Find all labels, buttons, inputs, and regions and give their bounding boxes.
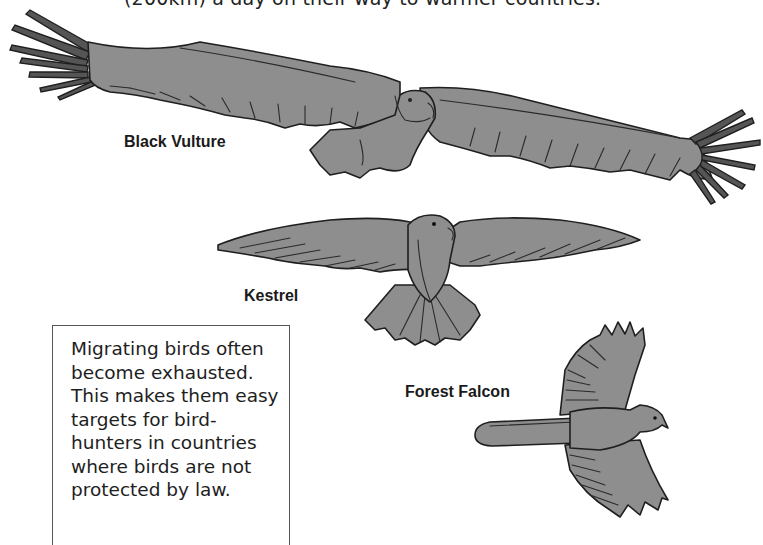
forest-falcon-illustration	[475, 322, 668, 517]
label-black-vulture: Black Vulture	[124, 133, 226, 151]
black-vulture-illustration	[10, 10, 760, 204]
label-kestrel: Kestrel	[244, 287, 298, 305]
info-box-text: Migrating birds often become exhausted. …	[71, 337, 289, 502]
label-forest-falcon: Forest Falcon	[405, 383, 510, 401]
info-box: Migrating birds often become exhausted. …	[52, 325, 290, 545]
